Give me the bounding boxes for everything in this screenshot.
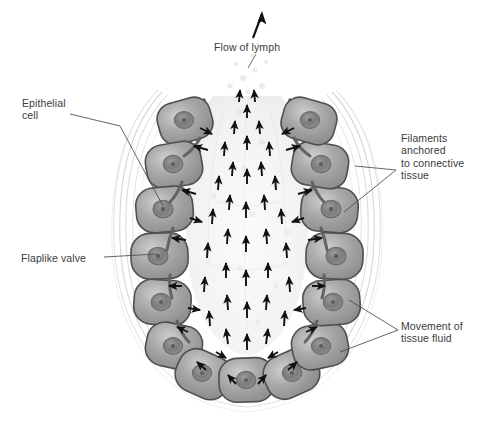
epithelial-cell (132, 278, 192, 327)
leader-movement-lower (340, 330, 398, 352)
label-movement-of-tissue-fluid: Movement of tissue fluid (401, 320, 463, 345)
flow-of-lymph-arrow (248, 11, 266, 68)
label-flow-of-lymph: Flow of lymph (214, 41, 280, 53)
epithelial-cell (288, 319, 352, 374)
lymphatic-capillary-figure: Flow of lymph Epithelial cell Flaplike v… (0, 0, 495, 429)
capillary-illustration (0, 0, 495, 429)
label-flaplike-valve: Flaplike valve (21, 252, 86, 264)
label-epithelial-cell: Epithelial cell (22, 97, 66, 122)
label-filaments-anchored-to-connective-tissue: Filaments anchored to connective tissue (401, 132, 464, 182)
epithelial-cell (299, 185, 360, 235)
